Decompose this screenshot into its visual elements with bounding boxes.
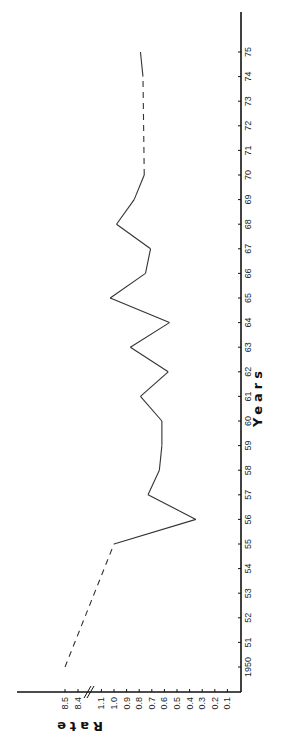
year-tick-label: 52 xyxy=(243,613,253,623)
year-tick-label: 1950 xyxy=(243,657,253,677)
year-tick-label: 64 xyxy=(243,318,253,328)
data-series xyxy=(65,52,196,667)
year-tick-label: 74 xyxy=(243,72,253,82)
line-segment xyxy=(140,52,143,77)
line-segment xyxy=(140,372,168,397)
year-tick-label: 51 xyxy=(243,637,253,647)
line-segment xyxy=(130,347,168,372)
line-segment xyxy=(110,273,145,298)
line-segment xyxy=(114,519,196,544)
year-tick-label: 73 xyxy=(243,96,253,106)
rate-tick-label: 0.5 xyxy=(172,697,182,710)
year-tick-label: 71 xyxy=(243,145,253,155)
year-tick-label: 75 xyxy=(243,47,253,57)
rate-tick-label: 0.6 xyxy=(159,697,169,710)
line-segment xyxy=(148,495,196,520)
rate-tick-label: 0.9 xyxy=(122,697,132,710)
rate-tick-label: 0.8 xyxy=(134,697,144,710)
line-segment xyxy=(110,298,169,323)
rate-tick-label: 1.1 xyxy=(96,697,106,710)
rate-tick-label: 8.4 xyxy=(73,697,83,710)
year-tick-label: 68 xyxy=(243,219,253,229)
rate-tick-label: 1.0 xyxy=(109,697,119,710)
year-tick-label: 56 xyxy=(243,514,253,524)
year-tick-label: 65 xyxy=(243,293,253,303)
line-segment xyxy=(130,323,169,348)
line-segment xyxy=(140,396,161,421)
year-tick-label: 72 xyxy=(243,121,253,131)
line-segment xyxy=(159,446,162,471)
rate-tick-label: 0.3 xyxy=(197,697,207,710)
year-tick-label: 53 xyxy=(243,588,253,598)
rate-tick-label: 0.2 xyxy=(210,697,220,710)
year-tick-label: 57 xyxy=(243,490,253,500)
year-tick-label: 66 xyxy=(243,268,253,278)
rate-tick-label: 0.1 xyxy=(222,697,232,710)
line-segment xyxy=(146,249,151,274)
year-tick-label: 55 xyxy=(243,539,253,549)
year-tick-label: 67 xyxy=(243,244,253,254)
rate-tick-label: 0.7 xyxy=(147,697,157,710)
line-segment xyxy=(134,175,144,200)
rate-tick-label: 8.5 xyxy=(60,697,70,710)
year-tick-label: 58 xyxy=(243,465,253,475)
line-segment xyxy=(117,224,151,249)
line-segment xyxy=(148,470,159,495)
year-tick-label: 70 xyxy=(243,170,253,180)
line-segment xyxy=(143,77,144,175)
year-tick-label: 54 xyxy=(243,564,253,574)
rate-axis-title: Rate xyxy=(53,719,103,734)
year-tick-label: 69 xyxy=(243,195,253,205)
rate-line-chart: 0.10.20.30.40.50.60.70.80.91.01.18.48.5 … xyxy=(0,0,281,749)
years-axis-title: Years xyxy=(250,367,265,428)
year-tick-label: 63 xyxy=(243,342,253,352)
line-segment xyxy=(117,200,135,225)
rate-tick-label: 0.4 xyxy=(185,697,195,710)
line-segment xyxy=(65,544,114,667)
year-tick-label: 59 xyxy=(243,441,253,451)
